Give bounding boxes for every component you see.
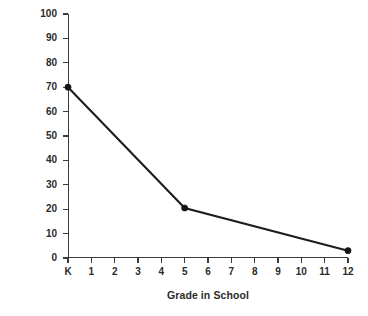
x-tick — [91, 258, 92, 263]
data-point-marker — [65, 84, 71, 90]
x-tick-label: 4 — [149, 267, 173, 277]
x-axis-title: Grade in School — [68, 289, 348, 301]
x-tick — [347, 258, 348, 263]
x-tick-label: 1 — [79, 267, 103, 277]
y-tick-label: 100 — [27, 9, 57, 19]
x-tick-label: 3 — [126, 267, 150, 277]
line-chart-figure: Percent Students 0102030405060708090100 … — [0, 0, 368, 316]
x-tick — [161, 258, 162, 263]
x-tick — [301, 258, 302, 263]
x-tick-label: 2 — [103, 267, 127, 277]
data-point-marker — [345, 248, 351, 254]
y-tick-label: 70 — [27, 82, 57, 92]
y-tick-label: 20 — [27, 204, 57, 214]
x-tick-label: 7 — [219, 267, 243, 277]
y-tick-label: 50 — [27, 131, 57, 141]
x-tick — [137, 258, 138, 263]
x-tick — [277, 258, 278, 263]
y-tick-label: 40 — [27, 155, 57, 165]
y-tick-label: 90 — [27, 33, 57, 43]
x-tick-label: 11 — [313, 267, 337, 277]
y-tick-label: 80 — [27, 58, 57, 68]
y-tick-label: 60 — [27, 107, 57, 117]
x-tick — [324, 258, 325, 263]
x-tick — [114, 258, 115, 263]
x-tick — [231, 258, 232, 263]
y-tick-label: 0 — [27, 253, 57, 263]
plot-area: 0102030405060708090100 K123456789101112 — [68, 14, 348, 258]
x-tick-label: 6 — [196, 267, 220, 277]
series-line-percent-students — [68, 87, 348, 250]
x-tick-label: K — [56, 267, 80, 277]
data-series-layer — [68, 14, 348, 258]
series-markers — [65, 84, 351, 254]
x-tick — [254, 258, 255, 263]
x-tick — [67, 258, 68, 263]
y-tick-label: 10 — [27, 229, 57, 239]
y-tick-label: 30 — [27, 180, 57, 190]
x-tick-label: 10 — [289, 267, 313, 277]
x-tick-label: 9 — [266, 267, 290, 277]
data-point-marker — [182, 205, 188, 211]
x-tick-label: 12 — [336, 267, 360, 277]
x-tick — [207, 258, 208, 263]
x-tick-label: 8 — [243, 267, 267, 277]
x-tick — [184, 258, 185, 263]
x-tick-label: 5 — [173, 267, 197, 277]
